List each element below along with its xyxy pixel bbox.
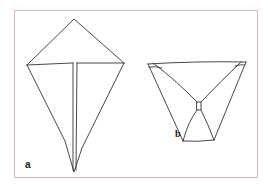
- panel-a-drawing: [27, 19, 124, 172]
- top-flap-outline: [27, 19, 124, 65]
- horizontal-crease: [27, 63, 124, 65]
- panel-b-drawing: [148, 62, 246, 142]
- top-left-corner-fold: [149, 67, 162, 68]
- bottom-edge: [183, 140, 214, 141]
- panel-b-label: b: [175, 129, 181, 139]
- crease-top-left: [153, 63, 197, 102]
- fold-diagrams: [0, 0, 268, 185]
- panel-a-label: a: [25, 160, 31, 170]
- crease-bottom-left: [183, 110, 197, 141]
- top-edge: [148, 62, 246, 64]
- crease-top-right: [201, 62, 241, 102]
- center-square: [197, 102, 201, 110]
- lower-kite-outline: [27, 63, 124, 172]
- right-side: [214, 62, 246, 140]
- crease-bottom-right: [201, 110, 214, 140]
- center-fold-right: [76, 63, 77, 170]
